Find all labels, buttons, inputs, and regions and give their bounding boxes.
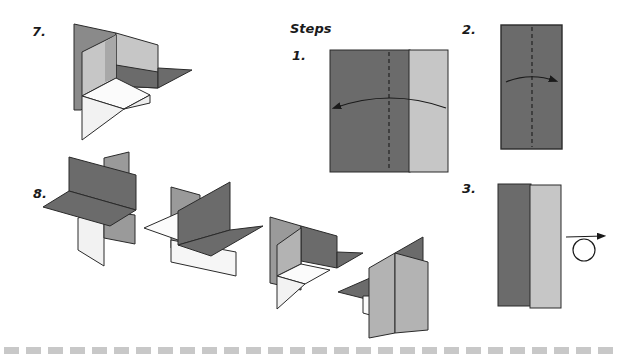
dash-segment <box>444 347 459 354</box>
step-7-figure <box>74 24 192 140</box>
dash-segment <box>136 347 151 354</box>
dash-segment <box>400 347 415 354</box>
dash-segment <box>4 347 19 354</box>
dash-segment <box>466 347 481 354</box>
dash-segment <box>246 347 261 354</box>
dash-segment <box>114 347 129 354</box>
dash-segment <box>598 347 613 354</box>
footer-dashed-border <box>4 347 631 354</box>
dash-segment <box>378 347 393 354</box>
dash-segment <box>180 347 195 354</box>
step-8a-figure <box>43 152 136 266</box>
dash-segment <box>312 347 327 354</box>
turn-over-loop-icon <box>573 239 595 261</box>
dash-segment <box>92 347 107 354</box>
dash-segment <box>70 347 85 354</box>
dash-segment <box>554 347 569 354</box>
dash-segment <box>510 347 525 354</box>
dash-segment <box>532 347 547 354</box>
dash-segment <box>334 347 349 354</box>
dash-segment <box>290 347 305 354</box>
step-8b-figure <box>144 182 263 276</box>
step-2-figure <box>501 25 562 149</box>
dash-segment <box>422 347 437 354</box>
dash-segment <box>356 347 371 354</box>
step-1-figure <box>330 50 448 172</box>
dash-segment <box>158 347 173 354</box>
dash-segment <box>268 347 283 354</box>
dash-segment <box>202 347 217 354</box>
turn-over-arrow-icon <box>566 236 604 237</box>
dash-segment <box>224 347 239 354</box>
step-3-figure <box>498 184 604 308</box>
dash-segment <box>576 347 591 354</box>
dash-segment <box>488 347 503 354</box>
origami-diagram <box>0 0 631 359</box>
dash-segment <box>26 347 41 354</box>
dash-segment <box>48 347 63 354</box>
